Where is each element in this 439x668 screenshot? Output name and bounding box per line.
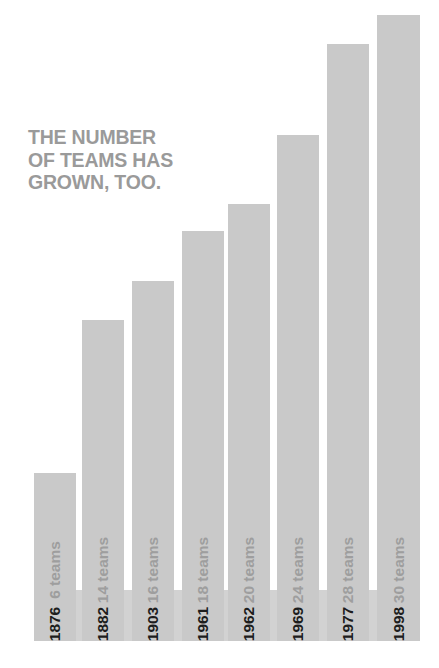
bar-group[interactable]: 16 teams1903 xyxy=(132,281,174,641)
bar-rect xyxy=(228,204,270,641)
bar-rect xyxy=(327,44,369,641)
bar-rect xyxy=(182,231,224,641)
bar-rect xyxy=(277,135,319,641)
bar-rect xyxy=(34,473,76,641)
bar-group[interactable]: 20 teams1962 xyxy=(228,204,270,641)
bar-group[interactable]: 14 teams1882 xyxy=(82,320,124,641)
bar-rect xyxy=(132,281,174,641)
bar-group[interactable]: 28 teams1977 xyxy=(327,44,369,641)
bar-group[interactable]: 6 teams1876 xyxy=(34,473,76,641)
chart-root: 6 teams187614 teams188216 teams190318 te… xyxy=(0,0,439,668)
bar-rect xyxy=(377,15,420,641)
bar-chart-plot-area: 6 teams187614 teams188216 teams190318 te… xyxy=(0,0,439,668)
bar-rect xyxy=(82,320,124,641)
chart-title: THE NUMBER OF TEAMS HAS GROWN, TOO. xyxy=(28,126,228,194)
bar-group[interactable]: 18 teams1961 xyxy=(182,231,224,641)
bar-group[interactable]: 24 teams1969 xyxy=(277,135,319,641)
bar-group[interactable]: 30 teams1998 xyxy=(377,15,420,641)
